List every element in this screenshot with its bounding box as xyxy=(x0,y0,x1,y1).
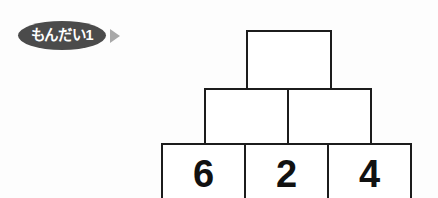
pyramid-row-bottom: 6 2 4 xyxy=(161,143,412,198)
pyramid-cell-value: 4 xyxy=(359,155,380,193)
pyramid-cell[interactable] xyxy=(287,88,372,145)
pyramid-row-middle xyxy=(204,88,372,145)
pyramid-cell[interactable]: 4 xyxy=(327,143,412,198)
pyramid-cell[interactable]: 2 xyxy=(244,143,329,198)
pyramid-row-top xyxy=(246,30,332,90)
pyramid-cell[interactable] xyxy=(204,88,289,145)
pyramid-cell-value: 6 xyxy=(193,155,214,193)
pyramid-cell-value: 2 xyxy=(276,155,297,193)
pyramid-cell[interactable] xyxy=(246,30,332,90)
number-pyramid: 6 2 4 xyxy=(0,0,438,198)
pyramid-cell[interactable]: 6 xyxy=(161,143,246,198)
worksheet-canvas: もんだい1 6 2 4 xyxy=(0,0,438,198)
